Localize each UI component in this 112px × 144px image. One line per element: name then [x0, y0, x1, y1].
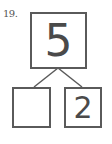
whole-box: 5	[30, 12, 87, 69]
part-left-box[interactable]	[12, 87, 51, 128]
part-right-box: 2	[64, 87, 102, 128]
connector-line-left	[34, 68, 58, 87]
connector-line-right	[58, 68, 82, 87]
part-right-value: 2	[73, 90, 92, 125]
whole-value: 5	[45, 15, 73, 66]
